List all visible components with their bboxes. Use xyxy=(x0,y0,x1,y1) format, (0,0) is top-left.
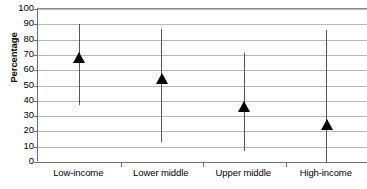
y-axis-tick-mark xyxy=(34,116,38,117)
y-axis-tick-label: 20 xyxy=(10,125,34,135)
y-axis-tick-label: 80 xyxy=(10,34,34,44)
chart-container: Percentage 1009080706050403020100 Low-in… xyxy=(0,0,367,189)
y-axis-tick-label: 0 xyxy=(10,156,34,166)
marker-triangle-icon xyxy=(156,73,168,84)
y-axis-tick-label: 70 xyxy=(10,49,34,59)
y-axis-tick-labels: 1009080706050403020100 xyxy=(10,8,34,161)
gridline xyxy=(38,9,367,10)
x-axis-category-label: Lower middle xyxy=(120,167,203,179)
gridline xyxy=(38,86,367,87)
error-bar xyxy=(161,29,162,142)
gridline xyxy=(38,116,367,117)
x-axis-tick-labels: Low-incomeLower middleUpper middleHigh-i… xyxy=(37,167,367,183)
gridline xyxy=(38,131,367,132)
marker-triangle-icon xyxy=(73,52,85,63)
y-axis-tick-label: 30 xyxy=(10,110,34,120)
gridline xyxy=(38,101,367,102)
marker-triangle-icon xyxy=(238,101,250,112)
y-axis-tick-label: 10 xyxy=(10,141,34,151)
y-axis-tick-mark xyxy=(34,9,38,10)
y-axis-tick-label: 90 xyxy=(10,18,34,28)
y-axis-tick-label: 100 xyxy=(10,3,34,13)
y-axis-tick-mark xyxy=(34,147,38,148)
x-axis-category-label: Low-income xyxy=(37,167,120,179)
y-axis-tick-mark xyxy=(34,162,38,163)
error-bar xyxy=(79,24,80,105)
y-axis-tick-label: 50 xyxy=(10,80,34,90)
y-axis-tick-mark xyxy=(34,101,38,102)
error-bar xyxy=(326,30,327,162)
y-axis-tick-mark xyxy=(34,70,38,71)
y-axis-tick-mark xyxy=(34,55,38,56)
gridline xyxy=(38,24,367,25)
gridline xyxy=(38,147,367,148)
y-axis-tick-mark xyxy=(34,86,38,87)
gridline xyxy=(38,70,367,71)
x-axis-category-label: Upper middle xyxy=(202,167,285,179)
marker-triangle-icon xyxy=(321,119,333,130)
plot-area xyxy=(37,8,367,161)
x-axis-category-label: High-income xyxy=(285,167,367,179)
y-axis-tick-label: 40 xyxy=(10,95,34,105)
y-axis-tick-mark xyxy=(34,24,38,25)
gridline xyxy=(38,40,367,41)
y-axis-tick-mark xyxy=(34,131,38,132)
gridline xyxy=(38,55,367,56)
y-axis-tick-mark xyxy=(34,40,38,41)
y-axis-tick-label: 60 xyxy=(10,64,34,74)
